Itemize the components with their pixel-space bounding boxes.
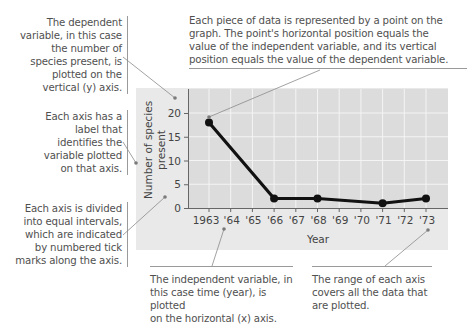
data-point	[205, 119, 213, 127]
x-tick-label: '67	[289, 214, 305, 226]
x-tick-label: '64	[224, 214, 241, 226]
y-tick-label: 5	[174, 178, 181, 190]
x-tick-label: '68	[310, 214, 326, 226]
x-tick-label: '73	[419, 214, 435, 226]
x-tick-label: '72	[397, 214, 413, 226]
x-tick-label: 1963	[193, 214, 220, 226]
x-tick-label: '69	[332, 214, 348, 226]
y-axis-title-line1: Number of species	[142, 101, 154, 199]
y-tick-label: 10	[168, 155, 181, 167]
data-point	[314, 195, 322, 203]
x-axis-title: Year	[306, 233, 330, 245]
data-point	[379, 199, 387, 207]
y-tick-label: 20	[168, 107, 181, 119]
x-tick-label: '71	[375, 214, 391, 226]
x-tick-label: '70	[354, 214, 370, 226]
x-tick-label: '66	[267, 214, 284, 226]
data-point	[422, 195, 430, 203]
data-point	[270, 195, 278, 203]
x-tick-label: '65	[245, 214, 261, 226]
y-tick-label: 0	[174, 202, 181, 214]
y-tick-label: 15	[168, 131, 181, 143]
y-axis-title-line2: present	[155, 130, 167, 170]
